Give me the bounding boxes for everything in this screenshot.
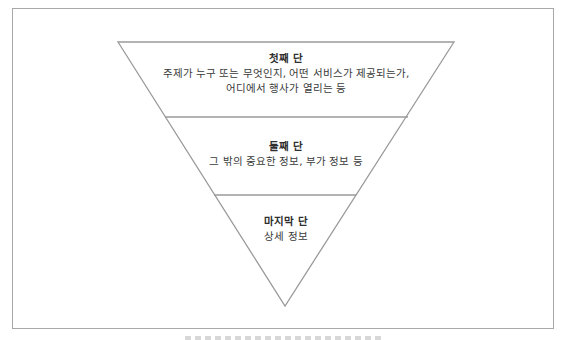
tier-first: 첫째 단 주제가 누구 또는 무엇인지, 어떤 서비스가 제공되는가, 어디에서… [118, 51, 454, 96]
clipped-caption [185, 336, 385, 340]
tier-last-line-1: 상세 정보 [205, 229, 367, 244]
tier-first-title: 첫째 단 [118, 51, 454, 66]
tier-second-line-1: 그 밖의 중요한 정보, 부가 정보 등 [160, 154, 412, 169]
tier-first-line-1: 주제가 누구 또는 무엇인지, 어떤 서비스가 제공되는가, [118, 66, 454, 81]
tier-last-title: 마지막 단 [205, 214, 367, 229]
tier-second: 둘째 단 그 밖의 중요한 정보, 부가 정보 등 [160, 139, 412, 169]
tier-first-line-2: 어디에서 행사가 열리는 등 [118, 81, 454, 96]
tier-second-title: 둘째 단 [160, 139, 412, 154]
tier-last: 마지막 단 상세 정보 [205, 214, 367, 244]
